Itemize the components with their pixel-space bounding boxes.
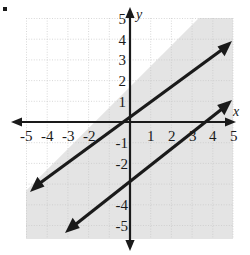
x-axis-label: x bbox=[232, 104, 240, 119]
y-tick-label-neg2: -2 bbox=[116, 156, 129, 172]
y-tick-label-5: 5 bbox=[119, 11, 127, 27]
y-tick-label-neg1: -1 bbox=[116, 135, 129, 151]
x-tick-label-4: 4 bbox=[209, 128, 217, 144]
coordinate-plane: x y -5 -4 -3 -2 1 2 3 4 5 5 4 3 2 1 -1 -… bbox=[0, 0, 250, 255]
y-tick-label-1: 1 bbox=[119, 94, 127, 110]
x-tick-label-5: 5 bbox=[230, 128, 238, 144]
x-tick-label-1: 1 bbox=[147, 128, 155, 144]
x-tick-label-neg4: -4 bbox=[41, 128, 54, 144]
x-tick-label-neg2: -2 bbox=[83, 128, 96, 144]
y-tick-label-2: 2 bbox=[119, 73, 127, 89]
x-tick-label-2: 2 bbox=[168, 128, 176, 144]
graph-figure: x y -5 -4 -3 -2 1 2 3 4 5 5 4 3 2 1 -1 -… bbox=[0, 0, 250, 255]
y-tick-label-3: 3 bbox=[119, 52, 127, 68]
y-tick-label-4: 4 bbox=[119, 32, 127, 48]
y-axis-label: y bbox=[134, 7, 143, 22]
x-tick-label-neg5: -5 bbox=[20, 128, 33, 144]
x-tick-label-neg3: -3 bbox=[62, 128, 75, 144]
x-tick-label-3: 3 bbox=[189, 128, 197, 144]
y-tick-label-neg4: -4 bbox=[116, 197, 129, 213]
y-tick-label-neg5: -5 bbox=[116, 218, 129, 234]
